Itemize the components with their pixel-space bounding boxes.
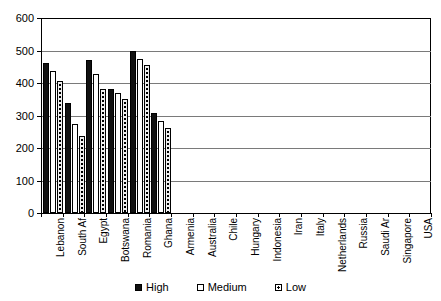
- x-tick: [236, 213, 237, 217]
- bar-medium-lebanon: [50, 71, 56, 213]
- bar-high-ghana: [151, 113, 157, 213]
- x-tick-label-chile: Chile: [229, 218, 239, 241]
- legend-item-high[interactable]: High: [135, 281, 169, 293]
- x-tick-label-egypt: Egypt: [99, 218, 109, 244]
- x-tick: [431, 213, 432, 217]
- x-tick-label-usa: USA: [424, 218, 434, 239]
- bar-high-romania: [130, 51, 136, 213]
- x-tick-label-indonesia: Indonesia: [273, 218, 283, 261]
- x-tick: [409, 213, 410, 217]
- y-tick-label: 200: [0, 143, 34, 154]
- bar-high-south-af: [65, 103, 71, 214]
- chart-legend: HighMediumLow: [0, 281, 441, 293]
- x-tick-label-botswana: Botswana: [121, 218, 131, 262]
- x-tick: [171, 213, 172, 217]
- y-tick-label: 500: [0, 46, 34, 57]
- bar-group: [108, 18, 128, 213]
- x-tick: [84, 213, 85, 217]
- x-tick: [258, 213, 259, 217]
- x-tick: [149, 213, 150, 217]
- x-tick-label-singapore: Singapore: [403, 218, 413, 264]
- legend-item-medium[interactable]: Medium: [197, 281, 247, 293]
- bar-low-south-af: [79, 136, 85, 213]
- bar-medium-ghana: [158, 121, 164, 213]
- bar-medium-romania: [137, 59, 143, 213]
- x-tick-label-romania: Romania: [143, 218, 153, 258]
- bar-low-lebanon: [57, 81, 63, 213]
- x-tick: [279, 213, 280, 217]
- x-tick: [344, 213, 345, 217]
- bar-group: [303, 18, 323, 213]
- bar-group: [130, 18, 150, 213]
- bar-group: [65, 18, 85, 213]
- x-tick: [41, 213, 42, 217]
- bar-group: [281, 18, 301, 213]
- bar-high-egypt: [86, 60, 92, 213]
- bar-medium-egypt: [93, 74, 99, 213]
- x-tick: [323, 213, 324, 217]
- bar-low-egypt: [100, 89, 106, 213]
- x-tick-label-saudi-ar: Saudi Ar: [381, 218, 391, 256]
- bar-medium-south-af: [72, 124, 78, 213]
- bar-low-ghana: [165, 128, 171, 213]
- legend-label: Low: [286, 281, 306, 293]
- y-tick-label: 400: [0, 78, 34, 89]
- legend-swatch-high-icon: [135, 284, 142, 291]
- bar-group: [195, 18, 215, 213]
- legend-label: Medium: [208, 281, 247, 293]
- x-tick: [128, 213, 129, 217]
- x-tick: [63, 213, 64, 217]
- x-tick-label-armenia: Armenia: [186, 218, 196, 255]
- bars-layer: [42, 18, 431, 213]
- x-tick-label-south-af: South Af: [78, 218, 88, 256]
- x-tick: [106, 213, 107, 217]
- x-tick-label-iran: Iran: [294, 218, 304, 235]
- bar-group: [238, 18, 258, 213]
- y-tick-label: 300: [0, 111, 34, 122]
- bar-group: [346, 18, 366, 213]
- bar-low-romania: [144, 65, 150, 213]
- bar-medium-botswana: [115, 93, 121, 213]
- bar-group: [151, 18, 171, 213]
- y-tick-label: 600: [0, 13, 34, 24]
- bar-high-lebanon: [43, 63, 49, 213]
- bar-group: [260, 18, 280, 213]
- bar-low-botswana: [122, 99, 128, 213]
- x-tick: [193, 213, 194, 217]
- bar-group: [411, 18, 431, 213]
- x-tick: [366, 213, 367, 217]
- x-tick: [388, 213, 389, 217]
- bar-group: [86, 18, 106, 213]
- bar-group: [325, 18, 345, 213]
- x-tick: [214, 213, 215, 217]
- y-tick-label: 100: [0, 176, 34, 187]
- x-tick-label-russia: Russia: [359, 218, 369, 249]
- bar-group: [390, 18, 410, 213]
- bar-group: [173, 18, 193, 213]
- legend-item-low[interactable]: Low: [275, 281, 306, 293]
- bar-high-botswana: [108, 89, 114, 213]
- x-tick-label-hungary: Hungary: [251, 218, 261, 256]
- bar-chart: 0100200300400500600 LebanonSouth AfEgypt…: [0, 0, 441, 301]
- x-tick-label-australia: Australia: [208, 218, 218, 257]
- x-axis-tick-labels: LebanonSouth AfEgyptBotswanaRomaniaGhana…: [41, 218, 432, 278]
- legend-label: High: [146, 281, 169, 293]
- x-tick-label-netherlands: Netherlands: [338, 218, 348, 272]
- y-tick-label: 0: [0, 208, 34, 219]
- bar-group: [216, 18, 236, 213]
- x-tick-label-lebanon: Lebanon: [56, 218, 66, 257]
- x-tick-label-ghana: Ghana: [164, 218, 174, 248]
- bar-group: [368, 18, 388, 213]
- bar-group: [43, 18, 63, 213]
- legend-swatch-low-icon: [275, 284, 282, 291]
- x-tick-label-italy: Italy: [316, 218, 326, 236]
- x-tick: [301, 213, 302, 217]
- legend-swatch-medium-icon: [197, 284, 204, 291]
